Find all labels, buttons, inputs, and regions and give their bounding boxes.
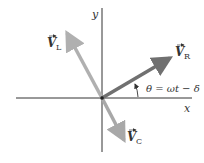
x-axis-label: x — [184, 102, 191, 115]
y-axis-label: y — [91, 8, 99, 21]
origin-point — [100, 96, 104, 100]
svg-text:C: C — [136, 137, 142, 146]
label-vl: V L — [47, 36, 62, 52]
vector-vc — [102, 98, 124, 140]
svg-text:L: L — [56, 43, 62, 52]
label-vr: V R — [175, 45, 191, 61]
svg-text:R: R — [184, 52, 191, 61]
angle-label: θ = ωt − δ — [146, 83, 200, 94]
label-vc: V C — [127, 130, 142, 146]
phasor-diagram: x y V L V R V C θ = ωt − δ — [0, 0, 204, 163]
vector-vl — [67, 33, 102, 98]
angle-arc — [135, 84, 138, 97]
